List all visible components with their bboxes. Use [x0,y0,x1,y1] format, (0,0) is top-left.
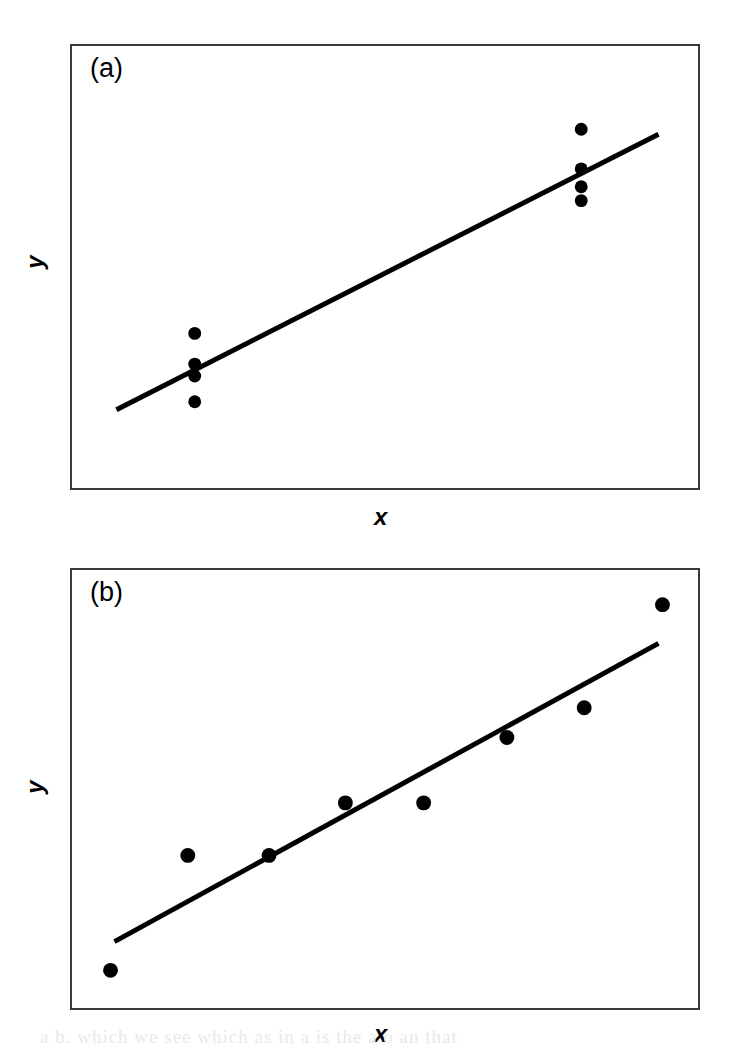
data-point [416,795,431,810]
data-point [188,395,201,408]
data-point [103,963,118,978]
data-point [499,730,514,745]
panel-b-plot [72,570,698,1008]
panel-b: (b) [70,568,700,1010]
data-point [575,194,588,207]
data-point [655,597,670,612]
panel-a: (a) [70,44,700,490]
figure-panels: (a) x y (b) x y a b. which we see which … [0,0,735,1051]
regression-line [114,643,658,941]
panel-a-y-axis-label: y [23,255,47,268]
data-point [262,848,277,863]
data-point [575,123,588,136]
data-point [188,327,201,340]
data-point [188,370,201,383]
data-point [577,700,592,715]
bottom-scan-artifact: a b. which we see which as in a is the a… [40,1026,700,1050]
panel-a-x-axis-label: x [374,505,387,529]
panel-a-plot [72,46,698,488]
data-point [338,795,353,810]
data-point [180,848,195,863]
data-point [575,180,588,193]
data-point [188,358,201,371]
data-point [575,162,588,175]
panel-b-y-axis-label: y [23,780,47,793]
